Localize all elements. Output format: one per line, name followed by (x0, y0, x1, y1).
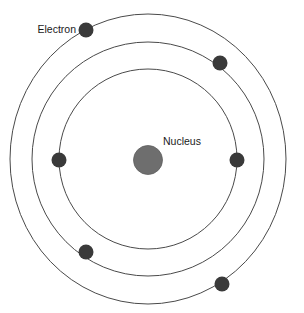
atom-diagram-canvas: Electron Nucleus (0, 0, 304, 313)
electron-dot (215, 277, 230, 292)
electron-dot (52, 153, 67, 168)
electron-dot (230, 153, 245, 168)
nucleus-label: Nucleus (163, 135, 201, 147)
electron-label: Electron (37, 23, 76, 35)
electron-dot (79, 23, 94, 38)
nucleus-group (134, 146, 163, 175)
electron-dot (213, 56, 228, 71)
atom-diagram-root: Electron Nucleus (0, 0, 304, 313)
nucleus-circle (134, 146, 163, 175)
electron-dot (79, 245, 94, 260)
